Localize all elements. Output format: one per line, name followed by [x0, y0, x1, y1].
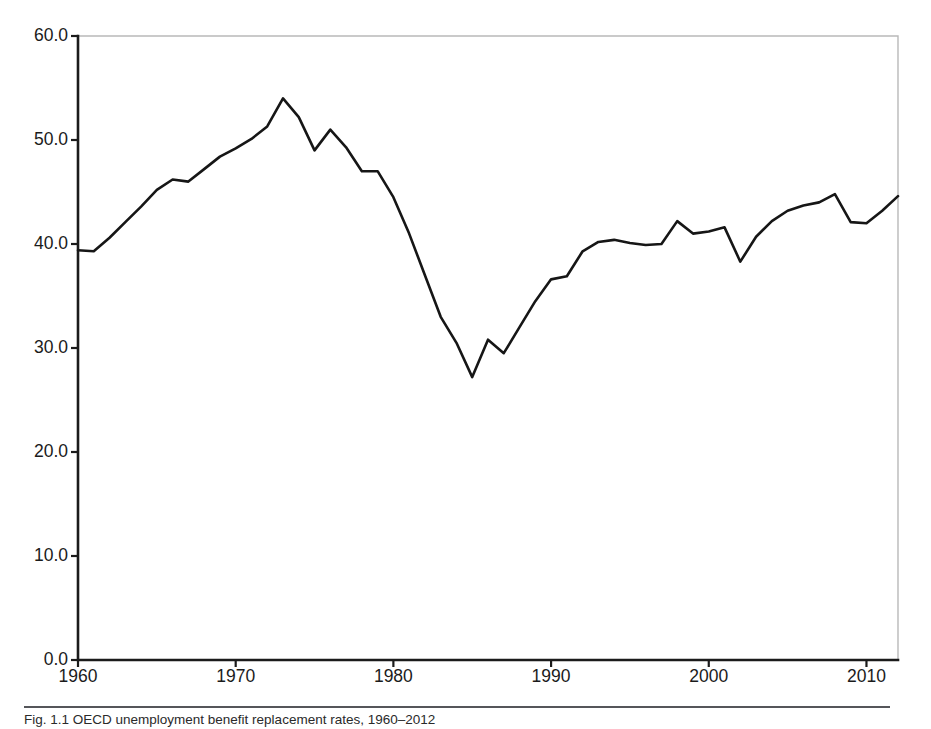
y-axis-tick-label: 30.0 — [6, 339, 68, 357]
x-axis-tick-label: 1990 — [511, 668, 591, 686]
x-axis-tick-label: 1960 — [38, 668, 118, 686]
caption-divider — [24, 706, 890, 708]
y-axis-tick-label: 20.0 — [6, 443, 68, 461]
y-axis-tick-label: 50.0 — [6, 131, 68, 149]
figure-caption: Fig. 1.1 OECD unemployment benefit repla… — [24, 712, 904, 729]
x-axis-tick-label: 2010 — [826, 668, 906, 686]
x-axis-tick-label: 1980 — [353, 668, 433, 686]
x-axis-tick-label: 2000 — [669, 668, 749, 686]
line-chart-svg — [0, 0, 931, 690]
plot-axes — [78, 36, 898, 660]
chart-plot-area: 0.010.020.030.040.050.060.0 196019701980… — [0, 0, 931, 690]
x-axis-tick-label: 1970 — [196, 668, 276, 686]
data-series-line — [78, 98, 898, 377]
y-axis-tick-label: 60.0 — [6, 27, 68, 45]
plot-frame — [78, 36, 898, 660]
y-axis-tick-label: 10.0 — [6, 547, 68, 565]
y-axis-tick-label: 40.0 — [6, 235, 68, 253]
tick-marks — [71, 36, 866, 667]
